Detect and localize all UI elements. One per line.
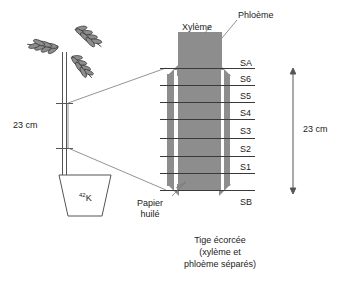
oiled-paper-gap-left: [174, 70, 177, 190]
oiled-paper-gap-right: [221, 70, 224, 190]
xylem-label: Xylème: [182, 22, 212, 33]
xylem-tissue: [178, 32, 222, 190]
phloem-label: Phloème: [238, 10, 274, 21]
segment-line-s6: [160, 85, 255, 86]
plant-stem: [62, 52, 67, 175]
oiled-paper-label: Papier huilé: [128, 198, 172, 220]
stem-section-tick-top: [56, 103, 73, 104]
stem-section-tick-bottom: [56, 148, 73, 149]
stem-section-dimension-label: 23 cm: [303, 124, 328, 135]
segment-label-s1: S1: [240, 162, 251, 172]
segment-line-s1: [160, 173, 255, 174]
tracer-mass-number: 42: [79, 192, 86, 198]
segment-label-sb: SB: [240, 197, 252, 207]
segment-line-sb: [160, 190, 255, 191]
segment-label-sa: SA: [240, 58, 252, 68]
segment-line-s2: [160, 156, 255, 157]
plant-section-dimension-label: 23 cm: [13, 120, 38, 131]
tracer-label: 42K: [79, 190, 92, 204]
stem-section-dimension-arrow: [286, 68, 300, 194]
segment-label-s3: S3: [240, 126, 251, 136]
oiled-paper-label-line2: huilé: [128, 209, 172, 220]
segment-line-sa: [160, 68, 255, 69]
segment-line-s3: [160, 138, 255, 139]
segment-label-s2: S2: [240, 144, 251, 154]
segment-label-s5: S5: [240, 91, 251, 101]
caption-line1: Tige écorcée: [160, 234, 280, 246]
segment-line-s4: [160, 119, 255, 120]
tracer-element: K: [86, 193, 92, 203]
segment-label-s6: S6: [240, 74, 251, 84]
phloem-tissue-left: [167, 74, 174, 186]
diagram-caption: Tige écorcée (xylème et phloème séparés): [160, 234, 280, 270]
segment-label-s4: S4: [240, 108, 251, 118]
caption-line2: (xylème et: [160, 246, 280, 258]
phloem-tissue-right: [223, 74, 230, 186]
diagram-canvas: 23 cm 42K SA S6 S5 S4 S3 S2 S1 SB: [0, 0, 345, 283]
oiled-paper-label-line1: Papier: [128, 198, 172, 209]
caption-line3: phloème séparés): [160, 258, 280, 270]
segment-line-s5: [160, 102, 255, 103]
